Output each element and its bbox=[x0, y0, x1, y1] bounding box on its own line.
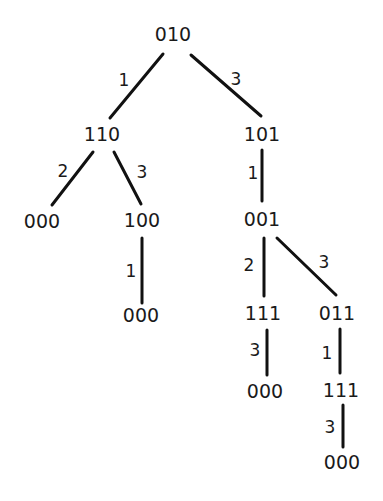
tree-node: 000 bbox=[24, 210, 60, 232]
edge-label: 1 bbox=[126, 261, 137, 281]
tree-node: 010 bbox=[155, 23, 191, 45]
state-tree-diagram: 13231123313 0101101010001000010001110110… bbox=[0, 0, 383, 501]
edge-label: 1 bbox=[322, 343, 333, 363]
edge-label: 3 bbox=[325, 417, 336, 437]
tree-node: 101 bbox=[244, 123, 280, 145]
tree-node: 100 bbox=[124, 209, 160, 231]
tree-node: 110 bbox=[84, 123, 120, 145]
edge-label: 3 bbox=[250, 340, 261, 360]
tree-node: 000 bbox=[324, 451, 360, 473]
edge-label: 2 bbox=[244, 255, 255, 275]
tree-edge bbox=[191, 55, 261, 116]
tree-edges bbox=[52, 54, 343, 447]
tree-node: 011 bbox=[319, 302, 355, 324]
tree-node: 001 bbox=[244, 208, 280, 230]
edge-label: 1 bbox=[119, 70, 130, 90]
edge-label: 2 bbox=[58, 161, 69, 181]
tree-nodes: 010110101000100001000111011000111000 bbox=[24, 23, 360, 473]
edge-label: 3 bbox=[137, 162, 148, 182]
tree-node: 111 bbox=[323, 379, 359, 401]
edge-label: 3 bbox=[319, 252, 330, 272]
edge-label: 3 bbox=[231, 69, 242, 89]
tree-node: 111 bbox=[245, 302, 281, 324]
tree-node: 000 bbox=[123, 304, 159, 326]
edge-label: 1 bbox=[248, 163, 259, 183]
tree-node: 000 bbox=[247, 380, 283, 402]
